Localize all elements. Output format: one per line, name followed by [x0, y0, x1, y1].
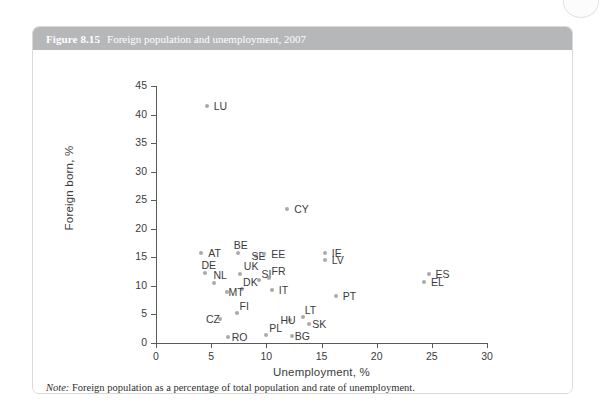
data-point-it: [270, 288, 274, 292]
data-point-pl: [264, 333, 268, 337]
data-label-mt: MT: [229, 287, 244, 298]
data-point-el: [422, 280, 426, 284]
y-tick-label: 15: [123, 250, 147, 262]
data-label-lt: LT: [305, 305, 316, 316]
x-tick: [432, 343, 433, 348]
x-tick-label: 15: [309, 350, 335, 362]
data-point-uk: [238, 272, 242, 276]
y-tick-label: 0: [123, 336, 147, 348]
y-axis-title: Foreign born, %: [63, 108, 75, 268]
y-tick: [151, 200, 156, 201]
y-tick: [151, 229, 156, 230]
y-tick-label: 35: [123, 136, 147, 148]
data-label-fr: FR: [272, 266, 286, 277]
x-tick: [211, 343, 212, 348]
x-tick-label: 20: [364, 350, 390, 362]
x-axis-title: Unemployment, %: [156, 366, 487, 378]
data-point-at: [199, 251, 203, 255]
data-label-at: AT: [208, 248, 221, 259]
x-tick: [487, 343, 488, 348]
data-point-lv: [323, 258, 327, 262]
y-tick-label: 25: [123, 193, 147, 205]
figure-title: Foreign population and unemployment, 200…: [107, 33, 306, 45]
data-point-es: [427, 272, 431, 276]
data-label-ee: EE: [271, 249, 285, 260]
data-point-pt: [334, 294, 338, 298]
data-label-nl: NL: [213, 270, 226, 281]
scatter-plot: 051015202530354045 051015202530 Foreign …: [33, 50, 572, 393]
note-text: Foreign population as a percentage of to…: [72, 382, 415, 393]
data-label-dk: DK: [243, 277, 258, 288]
data-label-fi: FI: [240, 301, 249, 312]
figure-header: Figure 8.15 Foreign population and unemp…: [33, 27, 572, 50]
data-point-bg: [290, 334, 294, 338]
data-label-be: BE: [234, 240, 248, 251]
data-point-fr: [267, 276, 271, 280]
data-label-it: IT: [279, 285, 288, 296]
y-tick: [151, 172, 156, 173]
data-label-cz: CZ: [206, 314, 220, 325]
y-tick: [151, 314, 156, 315]
y-tick-label: 5: [123, 307, 147, 319]
data-label-cy: CY: [294, 204, 309, 215]
data-label-hu: HU: [281, 315, 296, 326]
figure-notes: Note: Foreign population as a percentage…: [46, 382, 556, 394]
note-label: Note:: [46, 382, 69, 393]
y-tick-label: 10: [123, 279, 147, 291]
data-point-lu: [205, 104, 209, 108]
x-tick: [322, 343, 323, 348]
data-point-ie: [323, 251, 327, 255]
data-label-pt: PT: [343, 291, 356, 302]
data-label-uk: UK: [244, 261, 259, 272]
data-point-de: [203, 271, 207, 275]
y-tick: [151, 86, 156, 87]
data-label-pl: PL: [269, 323, 282, 334]
data-point-nl: [212, 281, 216, 285]
y-tick-label: 30: [123, 165, 147, 177]
x-tick-label: 0: [143, 350, 169, 362]
data-point-ee: [262, 252, 266, 256]
data-label-sk: SK: [312, 319, 326, 330]
data-point-fi: [235, 311, 239, 315]
y-tick: [151, 286, 156, 287]
x-tick-label: 25: [419, 350, 445, 362]
y-axis-line: [156, 86, 157, 344]
data-point-be: [236, 251, 240, 255]
data-label-el: EL: [431, 277, 444, 288]
data-label-lu: LU: [214, 101, 227, 112]
x-tick-label: 10: [253, 350, 279, 362]
x-tick: [156, 343, 157, 348]
y-tick-label: 45: [123, 79, 147, 91]
figure-card: Figure 8.15 Foreign population and unemp…: [32, 26, 573, 394]
y-tick: [151, 115, 156, 116]
data-point-sk: [307, 322, 311, 326]
y-tick: [151, 257, 156, 258]
data-label-lv: LV: [332, 255, 344, 266]
data-point-cy: [285, 207, 289, 211]
y-tick-label: 20: [123, 222, 147, 234]
x-tick-label: 5: [198, 350, 224, 362]
x-tick-label: 30: [474, 350, 500, 362]
x-tick: [377, 343, 378, 348]
y-tick: [151, 143, 156, 144]
x-tick: [266, 343, 267, 348]
data-label-ro: RO: [232, 332, 248, 343]
data-point-ro: [226, 335, 230, 339]
note-line: Note: Foreign population as a percentage…: [46, 382, 556, 393]
figure-number: Figure 8.15: [46, 33, 100, 45]
y-tick-label: 40: [123, 108, 147, 120]
page-scan-artifact: [563, 0, 599, 18]
data-label-bg: BG: [295, 331, 310, 342]
